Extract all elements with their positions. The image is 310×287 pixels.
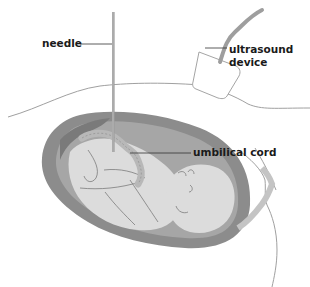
ultrasound-label-line2: device [229,56,293,69]
needle [112,12,115,152]
fetus-head [166,164,235,233]
ultrasound-device-label: ultrasound device [229,43,293,69]
needle-label: needle [42,37,82,50]
umbilical-cord-label: umbilical cord [193,146,276,159]
ultrasound-label-line1: ultrasound [229,43,293,56]
abdomen-outline [8,83,310,117]
